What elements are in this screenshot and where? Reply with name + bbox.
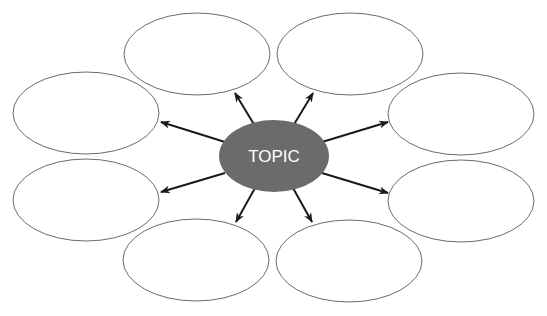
topic-node[interactable]: TOPIC	[219, 120, 329, 192]
bubble-bottom-left[interactable]	[123, 219, 269, 301]
bubble-right-upper[interactable]	[388, 73, 534, 155]
bubble-top-left[interactable]	[124, 13, 270, 95]
bubble-bottom-right[interactable]	[276, 220, 422, 302]
arrow-to-left-lower	[161, 173, 225, 192]
arrow-to-right-lower	[322, 173, 388, 193]
bubble-left-upper[interactable]	[13, 72, 159, 154]
arrow-to-right-upper	[322, 122, 388, 142]
topic-label: TOPIC	[248, 147, 300, 166]
bubble-right-lower[interactable]	[388, 160, 534, 242]
bubble-map-diagram: TOPIC	[0, 0, 547, 316]
arrow-to-left-upper	[161, 122, 225, 142]
bubble-left-lower[interactable]	[13, 159, 159, 241]
arrow-to-top-right	[293, 93, 313, 126]
bubble-top-right[interactable]	[277, 13, 423, 95]
arrow-to-top-left	[235, 93, 255, 126]
arrow-to-bottom-left	[236, 188, 255, 222]
arrow-to-bottom-right	[293, 188, 312, 222]
